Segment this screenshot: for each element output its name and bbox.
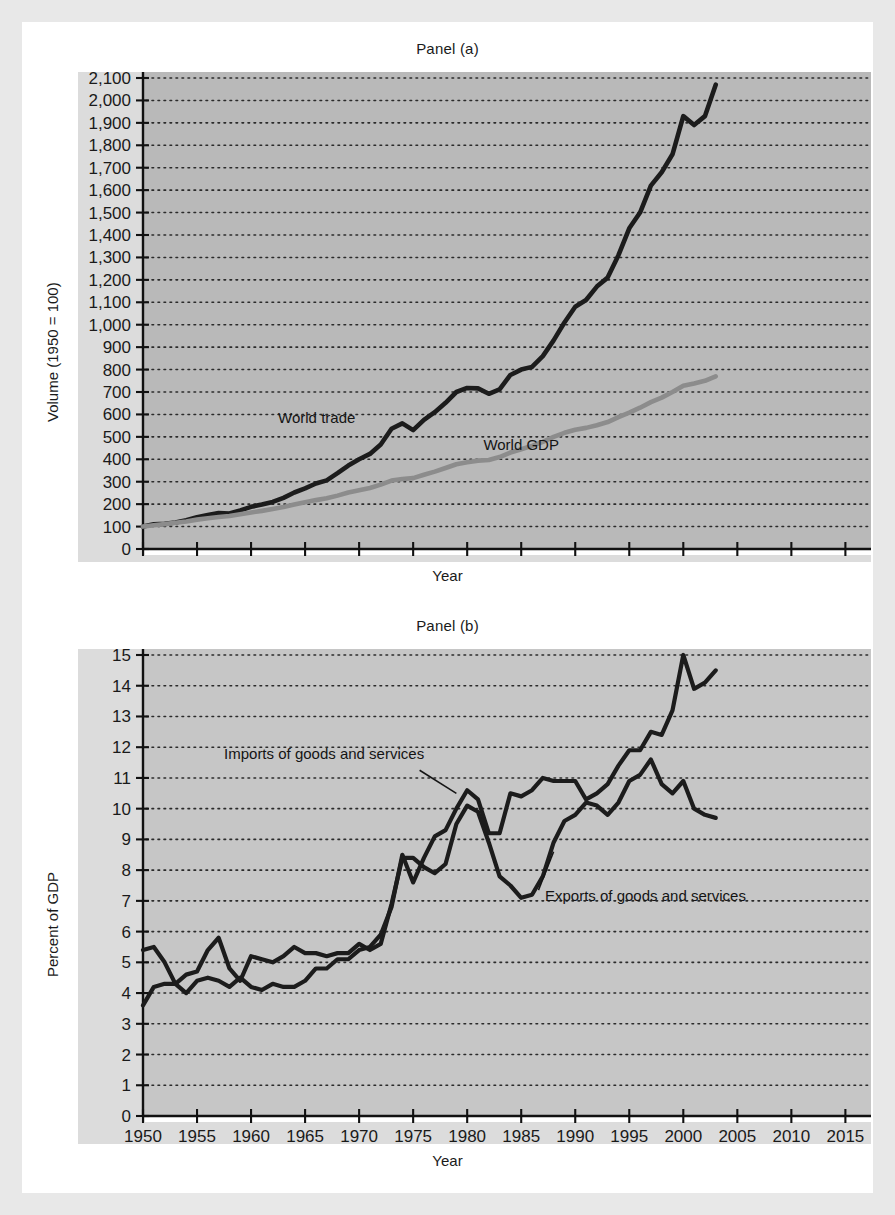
panel-b-plot: 0123456789101112131415195019551960196519… bbox=[22, 639, 873, 1144]
y-tick-label: 1,100 bbox=[88, 293, 131, 312]
x-tick-label: 1990 bbox=[556, 1127, 594, 1144]
y-tick-label: 8 bbox=[122, 861, 131, 880]
x-tick-label: 1995 bbox=[610, 560, 648, 562]
y-tick-label: 1,300 bbox=[88, 248, 131, 267]
x-tick-label: 2005 bbox=[718, 1127, 756, 1144]
y-tick-label: 11 bbox=[113, 769, 131, 788]
x-tick-label: 1965 bbox=[286, 1127, 324, 1144]
y-tick-label: 300 bbox=[103, 473, 131, 492]
y-tick-label: 1 bbox=[122, 1076, 131, 1095]
y-tick-label: 1,500 bbox=[88, 204, 131, 223]
panel-b-title: Panel (b) bbox=[22, 617, 873, 634]
y-tick-label: 9 bbox=[122, 830, 131, 849]
x-tick-label: 1980 bbox=[448, 1127, 486, 1144]
figure-page: Panel (a) Volume (1950 = 100) 0100200300… bbox=[22, 22, 873, 1193]
x-tick-label: 1995 bbox=[610, 1127, 648, 1144]
y-tick-label: 100 bbox=[103, 518, 131, 537]
x-tick-label: 2015 bbox=[826, 1127, 864, 1144]
y-tick-label: 6 bbox=[122, 923, 131, 942]
x-tick-label: 1960 bbox=[232, 560, 270, 562]
plot-background bbox=[143, 72, 871, 549]
x-tick-label: 1985 bbox=[502, 560, 540, 562]
panel-a-x-axis-title: Year bbox=[22, 567, 873, 584]
annotation-label-imports: Imports of goods and services bbox=[224, 745, 424, 762]
y-tick-label: 7 bbox=[122, 892, 131, 911]
y-tick-label: 4 bbox=[122, 984, 131, 1003]
y-tick-label: 12 bbox=[112, 738, 131, 757]
x-tick-label: 1955 bbox=[178, 1127, 216, 1144]
y-tick-label: 800 bbox=[103, 361, 131, 380]
y-tick-label: 1,400 bbox=[88, 226, 131, 245]
x-tick-label: 1980 bbox=[448, 560, 486, 562]
y-tick-label: 5 bbox=[122, 953, 131, 972]
y-tick-label: 700 bbox=[103, 383, 131, 402]
y-tick-label: 1,000 bbox=[88, 316, 131, 335]
y-tick-label: 1,900 bbox=[88, 114, 131, 133]
x-tick-label: 1970 bbox=[340, 1127, 378, 1144]
x-tick-label: 1960 bbox=[232, 1127, 270, 1144]
panel-b: Panel (b) Percent of GDP 012345678910111… bbox=[22, 607, 873, 1193]
x-tick-label: 1985 bbox=[502, 1127, 540, 1144]
y-tick-label: 600 bbox=[103, 405, 131, 424]
y-tick-label: 1,200 bbox=[88, 271, 131, 290]
y-tick-label: 1,800 bbox=[88, 136, 131, 155]
y-tick-label: 2,100 bbox=[88, 69, 131, 88]
y-tick-label: 2,000 bbox=[88, 91, 131, 110]
x-tick-label: 2000 bbox=[664, 1127, 702, 1144]
y-tick-label: 900 bbox=[103, 338, 131, 357]
y-tick-label: 1,600 bbox=[88, 181, 131, 200]
series-label-world-gdp: World GDP bbox=[483, 436, 559, 453]
x-tick-label: 1955 bbox=[178, 560, 216, 562]
y-tick-label: 13 bbox=[112, 707, 131, 726]
y-tick-label: 10 bbox=[112, 800, 131, 819]
panel-a-title: Panel (a) bbox=[22, 40, 873, 57]
x-tick-label: 1950 bbox=[124, 560, 162, 562]
panel-a-plot: 01002003004005006007008009001,0001,1001,… bbox=[22, 62, 873, 562]
x-tick-label: 1975 bbox=[394, 1127, 432, 1144]
series-label-world-trade: World trade bbox=[278, 409, 355, 426]
panel-b-x-axis-title: Year bbox=[22, 1152, 873, 1169]
x-tick-label: 1990 bbox=[556, 560, 594, 562]
y-tick-label: 500 bbox=[103, 428, 131, 447]
panel-a: Panel (a) Volume (1950 = 100) 0100200300… bbox=[22, 22, 873, 602]
y-tick-label: 14 bbox=[112, 677, 131, 696]
annotation-label-exports: Exports of goods and services bbox=[545, 887, 746, 904]
y-tick-label: 200 bbox=[103, 495, 131, 514]
y-tick-label: 15 bbox=[112, 646, 131, 665]
x-tick-label: 2015 bbox=[826, 560, 864, 562]
x-tick-label: 2010 bbox=[772, 1127, 810, 1144]
y-tick-label: 400 bbox=[103, 450, 131, 469]
y-tick-label: 2 bbox=[122, 1046, 131, 1065]
y-tick-label: 0 bbox=[122, 540, 131, 559]
x-tick-label: 2005 bbox=[718, 560, 756, 562]
x-tick-label: 1965 bbox=[286, 560, 324, 562]
x-tick-label: 1950 bbox=[124, 1127, 162, 1144]
y-tick-label: 0 bbox=[122, 1107, 131, 1126]
figure-root: Panel (a) Volume (1950 = 100) 0100200300… bbox=[0, 0, 895, 1215]
y-tick-label: 3 bbox=[122, 1015, 131, 1034]
x-tick-label: 2010 bbox=[772, 560, 810, 562]
y-tick-label: 1,700 bbox=[88, 159, 131, 178]
x-tick-label: 1970 bbox=[340, 560, 378, 562]
x-tick-label: 1975 bbox=[394, 560, 432, 562]
x-tick-label: 2000 bbox=[664, 560, 702, 562]
